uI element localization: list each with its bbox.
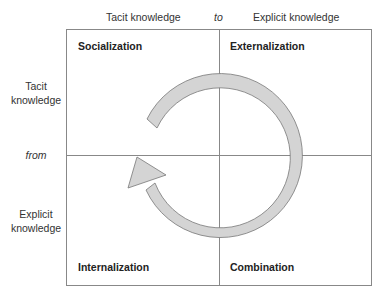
top-axis-connector-label: to (214, 11, 223, 23)
top-axis-explicit-label: Explicit knowledge (253, 11, 339, 23)
left-axis-connector-label: from (6, 148, 66, 162)
quadrant-combination: Combination (230, 261, 294, 273)
quadrant-socialization: Socialization (78, 40, 142, 52)
quadrant-internalization: Internalization (78, 261, 149, 273)
quadrant-externalization: Externalization (230, 40, 305, 52)
left-axis-explicit-label: Explicit knowledge (6, 207, 66, 235)
left-axis-tacit-label: Tacit knowledge (6, 79, 66, 107)
top-axis-tacit-label: Tacit knowledge (106, 11, 181, 23)
